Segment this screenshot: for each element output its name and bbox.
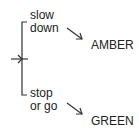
branch-diagram xyxy=(0,0,139,131)
top-label-line1: slow xyxy=(30,9,54,21)
bottom-label-line1: stop xyxy=(30,87,53,99)
bottom-target-label: GREEN xyxy=(91,115,134,127)
right-arrow-icon xyxy=(11,55,28,63)
top-target-label: AMBER xyxy=(91,39,134,51)
diagonal-arrow-icon-top xyxy=(67,28,82,39)
diagonal-arrow-icon-bottom xyxy=(67,103,82,114)
bottom-label-line2: or go xyxy=(30,100,57,112)
top-label-line2: down xyxy=(30,22,59,34)
